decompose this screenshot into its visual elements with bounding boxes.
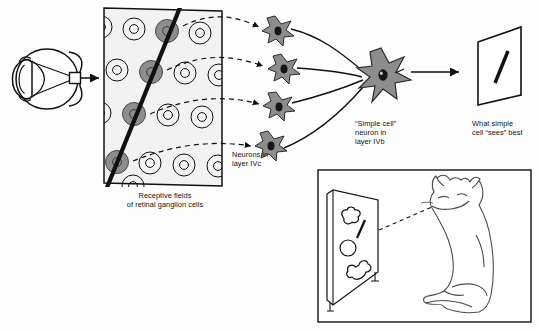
fovea-window <box>70 73 81 84</box>
eye-diagram <box>12 49 99 109</box>
label-simple-cell: “Simple cell” neuron in layer IVb <box>355 119 435 147</box>
simple-cell-neuron <box>357 48 411 102</box>
output-screen-border <box>478 27 521 105</box>
axon-curve <box>297 68 362 77</box>
output-screen <box>478 27 521 105</box>
cornea-inner <box>19 65 24 94</box>
receptive-field-panel <box>89 5 230 197</box>
label-sees-best: What simple cell “sees” best <box>472 119 539 137</box>
label-receptive-fields: Receptive fields of retinal ganglion cel… <box>104 191 226 209</box>
cat-eye-left <box>438 197 449 199</box>
label-neurons-ivc: Neurons in layer IVc <box>232 150 302 168</box>
stellate-neuron <box>262 16 294 46</box>
cat-whiskers <box>421 202 433 203</box>
axon-curve <box>291 29 363 71</box>
cat-panel <box>318 170 531 322</box>
axon-curve <box>284 86 364 148</box>
stellate-neuron <box>263 92 295 121</box>
stellate-neuron <box>268 54 300 84</box>
layer-ivc-neurons <box>255 16 300 161</box>
eyeball-outline <box>16 49 78 109</box>
figure-canvas: Receptive fields of retinal ganglion cel… <box>0 0 539 330</box>
convergent-axons <box>284 29 364 148</box>
